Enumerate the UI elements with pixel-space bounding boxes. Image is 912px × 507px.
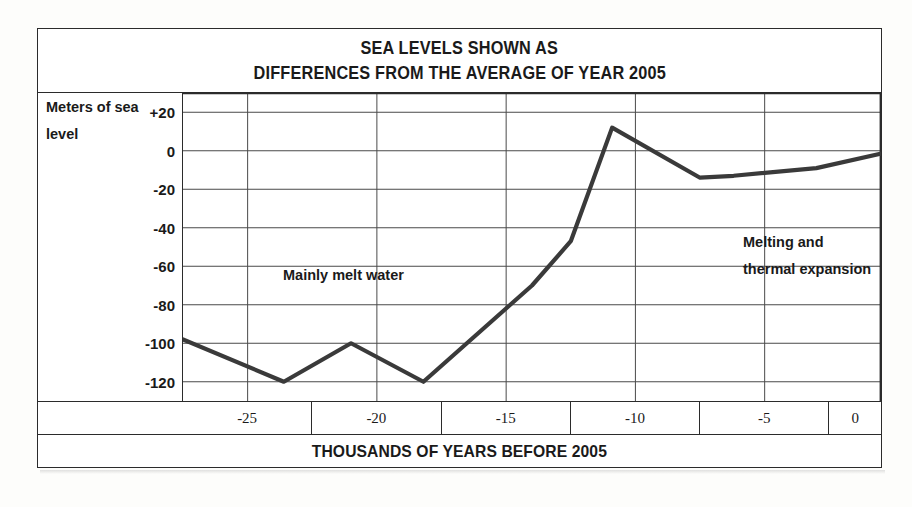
x-tick-label: -25 (237, 410, 257, 427)
x-tick-cell: -20 (312, 402, 441, 434)
chart-figure: SEA LEVELS SHOWN AS DIFFERENCES FROM THE… (37, 28, 882, 468)
y-axis-label-column: Meters of sea level +200-20-40-60-80-100… (38, 93, 183, 401)
vertical-gridlines (183, 93, 881, 401)
y-tick-label: -100 (145, 335, 175, 352)
y-tick-label: -40 (153, 219, 175, 236)
y-tick-label: -120 (145, 373, 175, 390)
x-tick-label: -10 (625, 410, 645, 427)
plot-svg (183, 93, 881, 401)
y-tick-label: +20 (150, 104, 175, 121)
chart-title-block: SEA LEVELS SHOWN AS DIFFERENCES FROM THE… (38, 29, 881, 93)
scan-edge-shadow (40, 470, 885, 474)
horizontal-gridlines (183, 112, 881, 382)
plot-area (183, 93, 881, 401)
x-tick-label: 0 (851, 410, 859, 427)
x-tick-label: -20 (366, 410, 386, 427)
chart-title-line-1: SEA LEVELS SHOWN AS (361, 36, 559, 61)
y-tick-label: -80 (153, 296, 175, 313)
x-axis-title: THOUSANDS OF YEARS BEFORE 2005 (312, 442, 607, 461)
x-tick-label: -5 (758, 410, 771, 427)
page-background: SEA LEVELS SHOWN AS DIFFERENCES FROM THE… (0, 0, 912, 507)
y-axis-title-line-1: Meters of sea (46, 99, 139, 115)
y-tick-label: -20 (153, 181, 175, 198)
x-tick-cell: -15 (442, 402, 571, 434)
x-axis-title-row: THOUSANDS OF YEARS BEFORE 2005 (38, 435, 881, 467)
x-tick-cell: -25 (183, 402, 312, 434)
x-tick-cell: -5 (700, 402, 829, 434)
y-axis-title-line-2: level (46, 126, 78, 142)
y-tick-label: 0 (167, 142, 175, 159)
x-tick-cell: -10 (571, 402, 700, 434)
y-tick-label: -60 (153, 258, 175, 275)
x-tick-label: -15 (496, 410, 516, 427)
x-tick-cell: 0 (829, 402, 881, 434)
chart-title-line-2: DIFFERENCES FROM THE AVERAGE OF YEAR 200… (253, 61, 665, 86)
x-tick-label-row: -25-20-15-10-50 (38, 401, 881, 435)
